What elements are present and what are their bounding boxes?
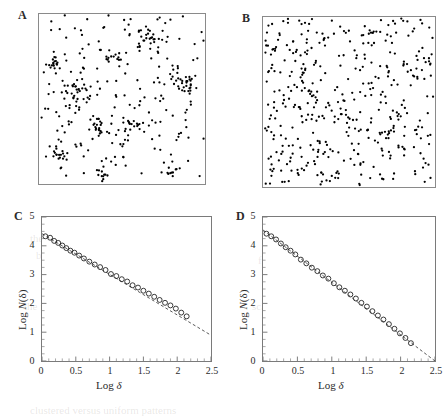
panel-d-xlabel: Log δ	[318, 379, 344, 391]
panel-c-xtick-0: 0	[33, 365, 49, 376]
panel-c-ylabel: Log N(δ)	[16, 290, 28, 330]
panel-d-xtick-2: 1	[325, 365, 341, 376]
panel-c-xtick-5: 2.5	[202, 365, 222, 376]
panel-d-plot-area	[262, 216, 436, 362]
panel-b-plot-area	[262, 16, 436, 188]
panel-c-ytick-3: 3	[25, 268, 39, 279]
panel-c-xtick-3: 1.5	[134, 365, 154, 376]
panel-c-xtick-2: 1	[102, 365, 118, 376]
panel-d-ytick-5: 5	[246, 210, 260, 221]
panel-c-ytick-5: 5	[25, 210, 39, 221]
panel-c-xtick-1: 0.5	[66, 365, 86, 376]
panel-d-data-svg	[263, 217, 435, 361]
panel-d-xtick-5: 2.5	[426, 365, 446, 376]
panel-b-label: B	[242, 11, 251, 26]
panel-d-xtick-1: 0.5	[288, 365, 308, 376]
figure-container: the scale of observation box counting di…	[0, 0, 448, 419]
panel-a-scatter-svg	[39, 14, 205, 184]
panel-b-scatter-svg	[263, 17, 435, 187]
panel-a-label: A	[18, 8, 27, 23]
panel-c-plot-area	[41, 216, 212, 362]
panel-d-xtick-4: 2	[394, 365, 410, 376]
panel-c-data-svg	[42, 217, 211, 361]
panel-d-label: D	[236, 209, 245, 224]
panel-c-xtick-4: 2	[170, 365, 186, 376]
panel-d-ytick-4: 4	[246, 239, 260, 250]
panel-d-ylabel: Log N(δ)	[237, 290, 249, 330]
panel-d-xtick-0: 0	[254, 365, 270, 376]
panel-c-label: C	[14, 209, 23, 224]
panel-c-xlabel: Log δ	[96, 379, 122, 391]
panel-a-plot-area	[38, 13, 206, 185]
panel-c-ytick-4: 4	[25, 239, 39, 250]
page-bleed-text	[0, 150, 3, 162]
panel-d-xtick-3: 1.5	[357, 365, 377, 376]
page-bleed-text: clustered versus uniform patterns	[30, 404, 176, 416]
panel-d-ytick-3: 3	[246, 268, 260, 279]
